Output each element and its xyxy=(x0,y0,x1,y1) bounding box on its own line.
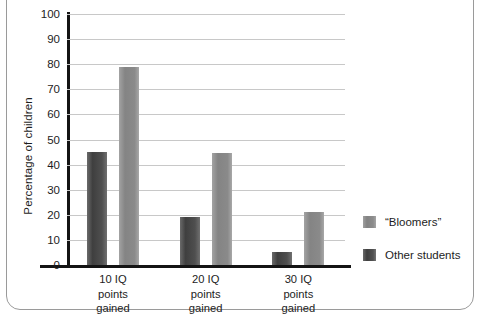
x-axis-category-label-line: gained xyxy=(158,301,254,316)
x-axis-category-label-line: gained xyxy=(65,301,161,316)
y-axis-tick-label: 10 xyxy=(47,234,60,246)
y-axis-tick-label: 50 xyxy=(47,134,60,146)
x-axis-category-label-line: 10 IQ xyxy=(65,272,161,287)
x-axis-category-label-line: points xyxy=(158,287,254,302)
x-axis-category-label: 10 IQpointsgained xyxy=(65,272,161,316)
bar xyxy=(119,67,139,265)
bar xyxy=(272,252,292,265)
x-axis-line xyxy=(40,265,351,268)
y-axis-tick-label: 40 xyxy=(47,159,60,171)
legend-item[interactable]: Other students xyxy=(363,249,475,261)
x-axis-category-label: 20 IQpointsgained xyxy=(158,272,254,316)
y-axis-tick-label: 30 xyxy=(47,184,60,196)
x-axis-category-label-line: gained xyxy=(250,301,346,316)
x-axis-category-label-line: 30 IQ xyxy=(250,272,346,287)
bar xyxy=(87,152,107,265)
plot-area: 0102030405060708090100 xyxy=(67,14,345,265)
y-axis-tick-label: 0 xyxy=(54,259,60,271)
y-axis-tick-label: 70 xyxy=(47,83,60,95)
bar-series-container xyxy=(67,14,345,265)
x-axis-category-label: 30 IQpointsgained xyxy=(250,272,346,316)
y-axis-tick-label: 100 xyxy=(41,8,60,20)
x-axis-category-label-line: points xyxy=(250,287,346,302)
y-axis-tick-label: 80 xyxy=(47,58,60,70)
chart-legend: “Bloomers”Other students xyxy=(363,216,475,282)
bar xyxy=(212,153,232,265)
y-axis-tick-label: 60 xyxy=(47,108,60,120)
chart-figure: Percentage of children 01020304050607080… xyxy=(0,0,480,336)
legend-item[interactable]: “Bloomers” xyxy=(363,216,475,228)
y-axis-tick-label: 90 xyxy=(47,33,60,45)
bar xyxy=(180,217,200,265)
legend-label: “Bloomers” xyxy=(385,216,441,228)
bar xyxy=(304,212,324,265)
legend-label: Other students xyxy=(385,249,460,261)
x-axis-category-label-line: points xyxy=(65,287,161,302)
y-axis-title: Percentage of children xyxy=(22,46,34,266)
y-axis-tick-label: 20 xyxy=(47,209,60,221)
legend-swatch-icon xyxy=(363,216,376,228)
legend-swatch-icon xyxy=(363,249,376,261)
x-axis-category-label-line: 20 IQ xyxy=(158,272,254,287)
